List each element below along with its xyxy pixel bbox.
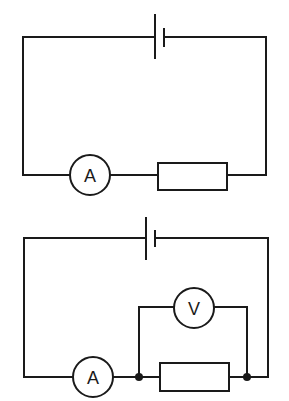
wire bbox=[164, 37, 266, 175]
voltmeter-icon: V bbox=[174, 288, 214, 328]
voltmeter-label: V bbox=[188, 299, 200, 319]
resistor-icon bbox=[160, 363, 229, 391]
junction-dot-icon bbox=[243, 373, 251, 381]
cell-icon bbox=[146, 217, 155, 260]
junction-dot-icon bbox=[135, 373, 143, 381]
resistor-icon bbox=[158, 163, 227, 190]
ammeter-icon: A bbox=[70, 155, 110, 195]
ammeter-label: A bbox=[87, 368, 99, 388]
circuit-2: A V bbox=[24, 217, 268, 397]
wire bbox=[24, 238, 146, 377]
ammeter-icon: A bbox=[73, 357, 113, 397]
cell-icon bbox=[155, 14, 164, 59]
ammeter-label: A bbox=[84, 166, 96, 186]
circuit-1: A bbox=[23, 14, 266, 195]
circuit-diagrams: A A V bbox=[0, 0, 289, 401]
